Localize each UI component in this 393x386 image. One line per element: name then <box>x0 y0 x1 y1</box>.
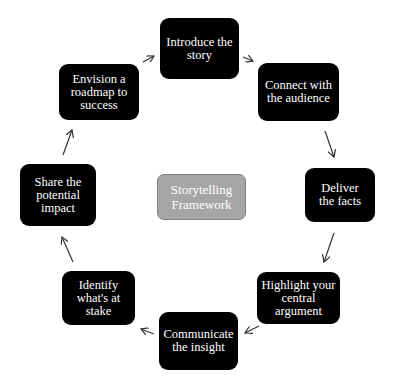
node-label: Identify what's at stake <box>72 279 125 318</box>
node-label: Highlight your central argument <box>261 279 336 318</box>
center-storytelling-framework: Storytelling Framework <box>157 174 246 220</box>
node-envision-a-roadmap-to-success: Envision a roadmap to success <box>59 64 139 120</box>
node-communicate-the-insight: Communicate the insight <box>159 312 238 370</box>
arrow-envision-to-introduce <box>143 56 154 62</box>
arrow-identify-to-share <box>62 237 73 262</box>
node-label: Introduce the story <box>164 36 235 62</box>
node-share-the-potential-impact: Share the potential impact <box>20 164 96 226</box>
node-identify-whats-at-stake: Identify what's at stake <box>62 271 135 325</box>
arrow-share-to-envision <box>63 130 72 155</box>
node-highlight-your-central-argument: Highlight your central argument <box>257 272 340 324</box>
node-label: Deliver the facts <box>313 182 367 208</box>
center-label: Storytelling Framework <box>168 182 235 212</box>
node-label: Communicate the insight <box>163 328 234 354</box>
node-label: Envision a roadmap to success <box>69 73 129 112</box>
node-label: Connect with the audience <box>262 79 335 105</box>
arrow-deliver-to-highlight <box>324 233 334 262</box>
node-connect-with-the-audience: Connect with the audience <box>258 63 339 121</box>
arrow-connect-to-deliver <box>325 131 334 157</box>
node-deliver-the-facts: Deliver the facts <box>305 168 375 222</box>
node-label: Share the potential impact <box>32 176 84 215</box>
arrow-highlight-to-communicate <box>245 326 259 333</box>
arrow-introduce-to-connect <box>243 57 253 61</box>
arrow-communicate-to-identify <box>141 329 154 334</box>
node-introduce-the-story: Introduce the story <box>160 18 239 79</box>
